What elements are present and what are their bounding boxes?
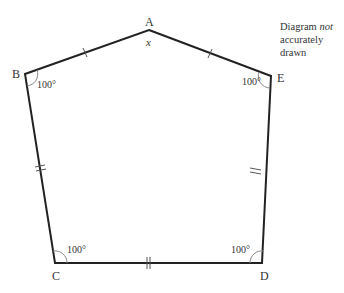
vertex-label-e: E bbox=[277, 72, 284, 84]
note-line-2: accurately drawn bbox=[280, 33, 344, 59]
angle-label-c: 100° bbox=[67, 245, 86, 255]
pentagon-outline bbox=[25, 30, 271, 263]
vertex-label-b: B bbox=[12, 68, 20, 80]
diagram-note: Diagram not accurately drawn bbox=[280, 20, 344, 59]
angle-label-a: x bbox=[146, 36, 151, 48]
note-emphasis: not bbox=[319, 21, 332, 32]
note-line-1: Diagram not bbox=[280, 20, 344, 33]
tick-de-1 bbox=[250, 168, 261, 170]
angle-label-e: 100° bbox=[242, 77, 261, 87]
note-prefix: Diagram bbox=[280, 21, 319, 32]
vertex-label-c: C bbox=[52, 270, 60, 282]
vertex-label-a: A bbox=[145, 16, 154, 28]
tick-de-2 bbox=[250, 172, 261, 174]
angle-label-d: 100° bbox=[231, 245, 250, 255]
vertex-label-d: D bbox=[260, 270, 269, 282]
angle-label-b: 100° bbox=[37, 80, 56, 90]
